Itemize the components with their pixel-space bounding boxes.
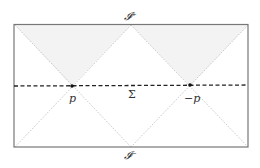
penrose-diagram <box>0 0 260 168</box>
scri-minus-label: 𝓘⁻ <box>124 150 137 161</box>
cauchy-slice-sigma <box>14 85 248 86</box>
point-minus-p-label: −p <box>184 93 200 104</box>
shaded-region-right <box>131 25 248 86</box>
point-p-label: p <box>69 93 76 104</box>
shaded-region-left <box>15 25 131 86</box>
point-p-marker <box>70 84 74 88</box>
sigma-label: Σ <box>128 89 136 100</box>
scri-plus-label: 𝓘⁺ <box>124 11 137 22</box>
point-minus-p-marker <box>188 83 192 87</box>
